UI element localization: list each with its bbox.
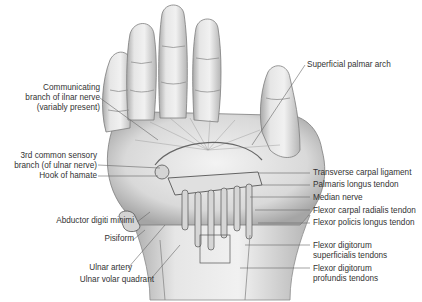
label-flexor-carpal-radialis-tendon: Flexor carpal radialis tendon <box>313 206 416 216</box>
label-palmaris-longus-tendon: Palmaris longus tendon <box>313 180 399 190</box>
label-third-common-sensory: 3rd common sensory branch (of ulnar nerv… <box>14 151 97 171</box>
label-flexor-digitorum-superficialis: Flexor digitorum superficialis tendons <box>313 241 387 261</box>
label-communicating-branch: Communicating branch of ilnar nerve (var… <box>25 83 100 113</box>
label-pisiform: Pisiform <box>104 234 134 244</box>
label-flexor-digitorum-profundis: Flexor digitorum profundis tendons <box>313 264 378 284</box>
label-median-nerve: Median nerve <box>313 193 363 203</box>
label-ulnar-artery: Ulnar artery <box>89 263 132 273</box>
label-hook-of-hamate: Hook of hamate <box>39 171 97 181</box>
label-abductor-digiti-minimi: Abductor digiti minimi <box>56 216 134 226</box>
label-superficial-palmar-arch: Superficial palmar arch <box>307 60 391 70</box>
label-transverse-carpal-ligament: Transverse carpal ligament <box>313 168 411 178</box>
label-ulnar-volar-quadrant: Ulnar volar quadrant <box>80 275 154 285</box>
label-flexor-policis-longus-tendon: Flexor policis longus tendon <box>313 218 415 228</box>
hand-anatomy-figure: Communicating branch of ilnar nerve (var… <box>0 0 422 302</box>
